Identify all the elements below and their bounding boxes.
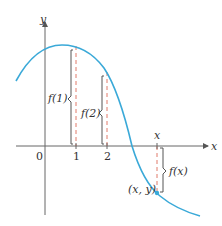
label-fx: f(x) xyxy=(168,165,188,178)
origin-label: 0 xyxy=(36,150,43,163)
graph-canvas: y x 0 1 2 x f(1) f(2) f(x) (x, y) xyxy=(0,0,222,226)
label-f2: f(2) xyxy=(80,107,101,120)
function-graph-figure: y x 0 1 2 x f(1) f(2) f(x) (x, y) xyxy=(0,0,222,226)
bracket-fx xyxy=(160,148,166,192)
tick-label-1: 1 xyxy=(73,150,80,163)
tick-label-2: 2 xyxy=(104,150,111,163)
x-axis-label: x xyxy=(211,140,218,153)
y-axis-label: y xyxy=(39,13,47,26)
bracket-f1 xyxy=(68,50,73,144)
function-curve xyxy=(16,45,200,216)
x-mark-label: x xyxy=(154,129,161,142)
label-f1: f(1) xyxy=(47,92,68,105)
label-point: (x, y) xyxy=(128,183,156,196)
